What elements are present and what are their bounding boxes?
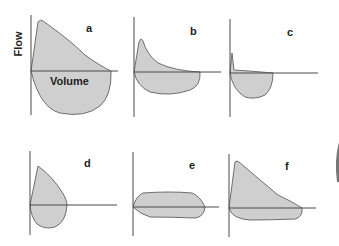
panel-label-c: c: [287, 26, 293, 38]
x-axis-label: Volume: [50, 75, 89, 87]
loop-c: [230, 53, 273, 98]
panel-b: b: [134, 17, 221, 117]
loop-e: [133, 192, 205, 218]
panel-label-d: d: [84, 157, 91, 169]
panel-label-b: b: [190, 25, 197, 37]
panel-label-f: f: [285, 160, 289, 172]
loop-d: [30, 166, 67, 228]
y-axis-label: Flow: [12, 31, 24, 56]
panel-label-e: e: [189, 159, 195, 171]
panel-f: f: [229, 154, 316, 237]
panel-c: c: [230, 19, 318, 117]
panel-label-a: a: [86, 22, 93, 34]
panel-e: e: [133, 152, 219, 236]
panel-d: d: [30, 151, 117, 235]
loop-f: [229, 161, 302, 220]
panel-a: a Volume: [31, 15, 118, 115]
loop-b: [134, 39, 200, 94]
flow-volume-diagram: Flow a Volume b c d e f: [0, 0, 339, 246]
loop-a: [31, 20, 111, 114]
